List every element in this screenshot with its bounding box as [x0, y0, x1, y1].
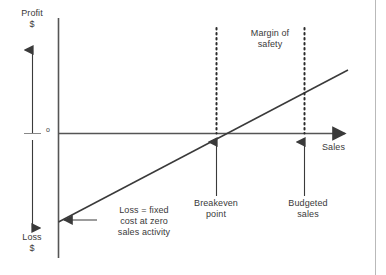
- y-axis-negative-label: Loss $: [6, 232, 58, 254]
- margin-of-safety-label: Margin of safety: [222, 28, 318, 50]
- breakeven-chart: Profit $ Loss $ o Sales Margin of safety…: [0, 0, 386, 275]
- breakeven-point-label: Breakeven point: [176, 198, 256, 220]
- y-axis-positive-label: Profit $: [6, 8, 58, 30]
- budgeted-sales-label: Budgeted sales: [268, 198, 348, 220]
- origin-label: o: [38, 124, 50, 135]
- loss-note-label: Loss = fixed cost at zero sales activity: [100, 205, 188, 238]
- x-axis-label: Sales: [322, 142, 364, 153]
